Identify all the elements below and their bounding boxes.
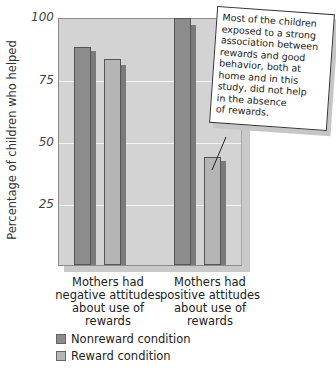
bar-positive-reward: [204, 157, 221, 265]
legend-item-nonreward: Nonreward condition: [56, 332, 191, 346]
y-tick-25: 25: [24, 197, 54, 211]
y-tick-50: 50: [24, 135, 54, 149]
bar-negative-nonreward: [74, 47, 91, 265]
y-tick-75: 75: [24, 73, 54, 87]
legend-item-reward: Reward condition: [56, 349, 171, 363]
x-category-negative: Mothers had negative attitudes about use…: [53, 276, 163, 328]
y-axis-label: Percentage of children who helped: [5, 40, 19, 240]
legend-swatch-nonreward: [56, 334, 66, 344]
legend-swatch-reward: [56, 351, 66, 361]
bar-negative-reward: [104, 59, 121, 265]
y-tick-100: 100: [24, 10, 54, 24]
bar-positive-nonreward: [174, 18, 191, 265]
callout-note: Most of the children exposed to a strong…: [209, 6, 335, 131]
x-category-positive: Mothers had positive attitudes about use…: [155, 276, 265, 328]
